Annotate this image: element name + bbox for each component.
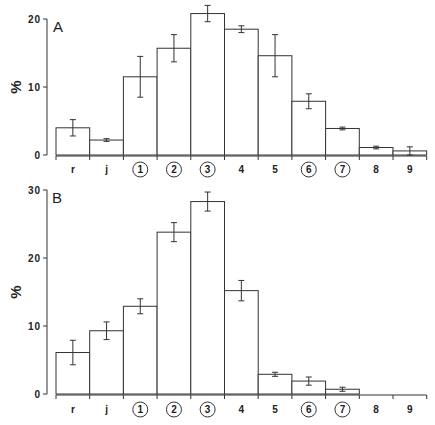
bar-5 <box>258 374 292 394</box>
category-label: 4 <box>239 164 245 175</box>
y-axis-label: % <box>7 80 24 93</box>
bar-3 <box>191 202 225 394</box>
category-label: j <box>104 404 108 415</box>
y-tick-label: 10 <box>28 82 41 93</box>
category-label: 9 <box>407 404 413 415</box>
bar-j <box>90 140 124 155</box>
category-label: r <box>71 404 75 415</box>
bar-4 <box>225 291 259 394</box>
category-label: 8 <box>373 164 379 175</box>
category-label: 1 <box>137 404 143 415</box>
bar-chart-figure: 01020%Arj123456789 0102030%Brj123456789 <box>0 0 435 425</box>
figure: A B 01020%Arj123456789 0102030%Brj123456… <box>0 0 435 425</box>
category-label: 2 <box>171 404 177 415</box>
bar-3 <box>191 14 225 155</box>
bar-1 <box>123 306 157 394</box>
category-label: 9 <box>407 164 413 175</box>
category-label: r <box>71 164 75 175</box>
category-label: 7 <box>340 404 346 415</box>
bar-4 <box>225 29 259 155</box>
y-tick-label: 0 <box>34 150 41 161</box>
y-tick-label: 20 <box>28 14 41 25</box>
y-tick-label: 10 <box>28 321 41 332</box>
category-label: 4 <box>239 404 245 415</box>
category-label: 2 <box>171 164 177 175</box>
category-label: 6 <box>306 164 312 175</box>
panel-letter: B <box>52 189 62 206</box>
bar-j <box>90 331 124 394</box>
category-label: j <box>104 164 108 175</box>
bar-2 <box>157 48 191 155</box>
category-label: 3 <box>205 404 211 415</box>
category-label: 6 <box>306 404 312 415</box>
category-label: 5 <box>272 164 278 175</box>
bar-7 <box>326 128 360 155</box>
y-tick-label: 20 <box>28 253 41 264</box>
category-label: 1 <box>137 164 143 175</box>
panel-a-chart: 01020%Arj123456789 <box>7 5 427 177</box>
category-label: 5 <box>272 404 278 415</box>
y-tick-label: 30 <box>28 185 41 196</box>
y-tick-label: 0 <box>34 389 41 400</box>
bar-6 <box>292 101 326 155</box>
bar-2 <box>157 232 191 394</box>
panel-letter: A <box>53 18 63 35</box>
y-axis-label: % <box>7 285 24 298</box>
category-label: 8 <box>373 404 379 415</box>
category-label: 3 <box>205 164 211 175</box>
category-label: 7 <box>340 164 346 175</box>
panel-b-chart: 0102030%Brj123456789 <box>7 185 427 418</box>
